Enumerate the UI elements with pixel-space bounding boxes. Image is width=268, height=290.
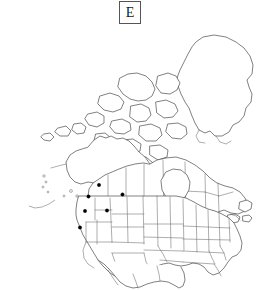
map-canvas	[0, 24, 268, 290]
occurrence-marker	[87, 195, 90, 198]
occurrence-marker	[121, 193, 124, 196]
occurrence-marker	[105, 209, 108, 212]
north-america-map	[0, 24, 268, 290]
occurrence-marker	[97, 183, 100, 186]
panel-label-text: E	[126, 6, 135, 20]
occurrence-marker	[83, 209, 86, 212]
occurrence-marker	[78, 226, 81, 229]
distribution-map-figure: E	[0, 0, 268, 290]
panel-label-box: E	[119, 1, 141, 24]
landmass-greenland	[177, 35, 253, 144]
